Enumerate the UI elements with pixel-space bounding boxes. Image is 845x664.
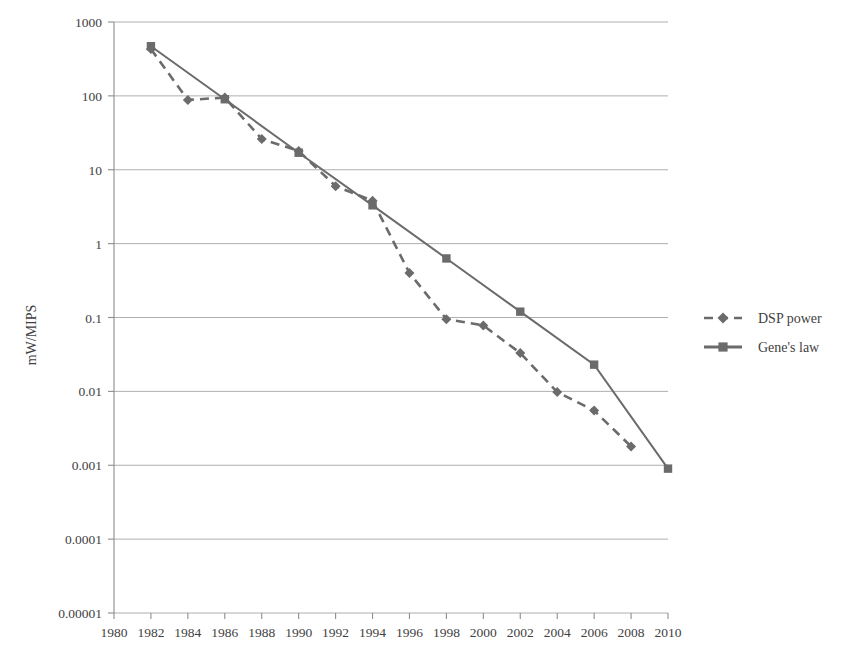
x-tick-label: 1996 — [396, 625, 423, 640]
series-line-gene-s-law — [151, 46, 668, 468]
y-tick-label: 0.00001 — [58, 606, 102, 621]
series-line-dsp-power — [151, 49, 631, 446]
x-tick-label: 1994 — [359, 625, 386, 640]
y-axis-ticks-group: 10001001010.10.010.0010.00010.00001 — [58, 15, 114, 621]
x-tick-label: 2010 — [655, 625, 682, 640]
data-point-gene-s-law — [147, 42, 155, 50]
y-tick-label: 0.01 — [78, 384, 102, 399]
y-axis-title-group: mW/MIPS — [24, 305, 39, 366]
x-tick-label: 1992 — [322, 625, 349, 640]
data-point-gene-s-law — [590, 360, 598, 368]
y-axis-title: mW/MIPS — [24, 305, 39, 366]
data-point-gene-s-law — [516, 307, 524, 315]
y-tick-label: 0.001 — [72, 458, 102, 473]
x-tick-label: 2000 — [470, 625, 497, 640]
y-tick-label: 1000 — [75, 15, 102, 30]
x-tick-label: 2006 — [581, 625, 608, 640]
series-group — [146, 42, 672, 473]
legend-group: DSP powerGene's law — [704, 311, 822, 355]
legend-label: DSP power — [758, 311, 822, 326]
x-tick-label: 2004 — [544, 625, 571, 640]
legend-marker-square-icon — [718, 342, 727, 351]
x-tick-label: 1980 — [101, 625, 128, 640]
data-point-gene-s-law — [368, 201, 376, 209]
x-tick-label: 2008 — [618, 625, 645, 640]
y-tick-label: 1 — [95, 237, 102, 252]
x-tick-label: 1988 — [248, 625, 275, 640]
data-point-gene-s-law — [442, 254, 450, 262]
data-point-dsp-power — [404, 268, 414, 278]
data-point-gene-s-law — [294, 149, 302, 157]
x-tick-label: 1990 — [285, 625, 312, 640]
legend-marker-diamond-icon — [718, 313, 729, 324]
legend-item[interactable]: Gene's law — [704, 340, 820, 355]
x-tick-label: 2002 — [507, 625, 534, 640]
x-tick-label: 1982 — [137, 625, 164, 640]
data-point-gene-s-law — [221, 95, 229, 103]
legend-item[interactable]: DSP power — [704, 311, 822, 326]
x-tick-label: 1986 — [211, 625, 238, 640]
y-tick-label: 0.0001 — [65, 532, 102, 547]
data-point-gene-s-law — [664, 464, 672, 472]
x-tick-label: 1998 — [433, 625, 460, 640]
y-tick-label: 100 — [82, 89, 103, 104]
legend-label: Gene's law — [758, 340, 820, 355]
chart-container: 10001001010.10.010.0010.00010.00001 1980… — [0, 0, 845, 664]
x-axis-ticks-group: 1980198219841986198819901992199419961998… — [101, 613, 682, 640]
y-tick-label: 0.1 — [85, 311, 102, 326]
gridlines-group — [114, 22, 668, 613]
chart-svg: 10001001010.10.010.0010.00010.00001 1980… — [0, 0, 845, 664]
data-point-dsp-power — [183, 95, 193, 105]
x-tick-label: 1984 — [174, 625, 201, 640]
y-tick-label: 10 — [89, 163, 103, 178]
